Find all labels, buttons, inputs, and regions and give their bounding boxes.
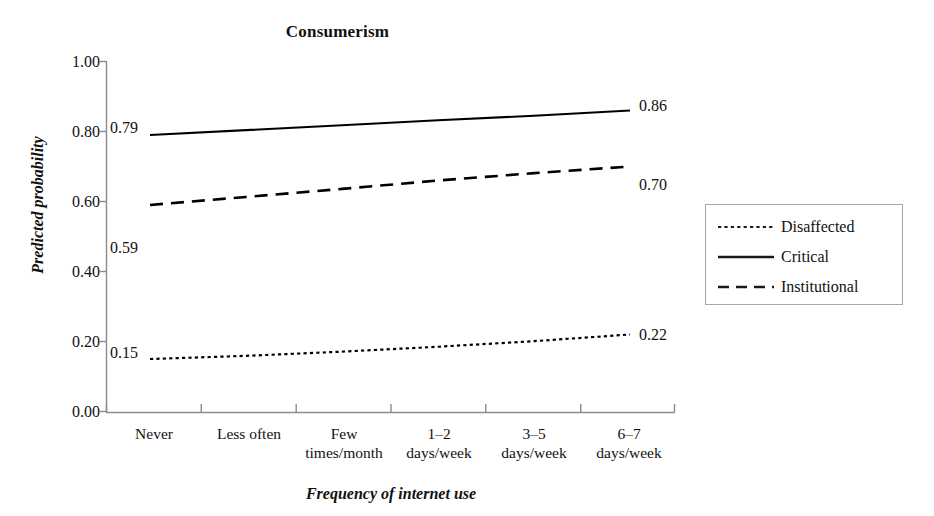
value-label-institutional-end: 0.70 (639, 177, 667, 193)
legend-item-disaffected[interactable]: Disaffected (706, 213, 904, 241)
x-tick-label-3-5-days-week: 3–5 days/week (486, 424, 582, 462)
legend-item-institutional[interactable]: Institutional (706, 273, 904, 301)
x-tick-marks (107, 404, 675, 412)
x-tick-label-1-2-days-week-line2: days/week (391, 443, 487, 462)
legend-label-disaffected: Disaffected (781, 219, 854, 235)
x-tick-label-3-5-days-week-line1: 3–5 (486, 424, 582, 443)
x-tick-label-less-often-line1: Less often (201, 424, 297, 443)
value-label-disaffected-end: 0.22 (639, 327, 667, 343)
series-line-critical (150, 111, 630, 136)
legend-sample-solid-icon (718, 248, 774, 266)
series-line-disaffected (150, 335, 630, 360)
x-tick-label-1-2-days-week-line1: 1–2 (391, 424, 487, 443)
x-tick-label-never: Never (106, 424, 202, 443)
x-tick-label-6-7-days-week-line1: 6–7 (581, 424, 677, 443)
value-label-disaffected-start: 0.15 (110, 345, 138, 361)
legend-label-critical: Critical (781, 249, 829, 265)
legend-item-critical[interactable]: Critical (706, 243, 904, 271)
x-tick-label-never-line1: Never (106, 424, 202, 443)
series-line-institutional (150, 167, 630, 206)
x-tick-label-few-times-month-line2: times/month (296, 443, 392, 462)
x-tick-label-6-7-days-week-line2: days/week (581, 443, 677, 462)
legend-sample-dashed-icon (718, 278, 774, 296)
legend-label-institutional: Institutional (781, 279, 858, 295)
value-label-critical-start: 0.79 (110, 120, 138, 136)
legend: Disaffected Critical Institutional (705, 204, 903, 305)
x-tick-label-less-often: Less often (201, 424, 297, 443)
chart-page: Consumerism Predicted probability Freque… (0, 0, 934, 516)
value-label-institutional-start: 0.59 (110, 240, 138, 256)
x-tick-label-3-5-days-week-line2: days/week (486, 443, 582, 462)
x-tick-label-few-times-month: Few times/month (296, 424, 392, 462)
x-tick-label-1-2-days-week: 1–2 days/week (391, 424, 487, 462)
x-tick-label-6-7-days-week: 6–7 days/week (581, 424, 677, 462)
y-tick-marks (100, 62, 106, 412)
value-label-critical-end: 0.86 (639, 98, 667, 114)
legend-sample-dotted-icon (718, 218, 774, 236)
x-tick-label-few-times-month-line1: Few (296, 424, 392, 443)
